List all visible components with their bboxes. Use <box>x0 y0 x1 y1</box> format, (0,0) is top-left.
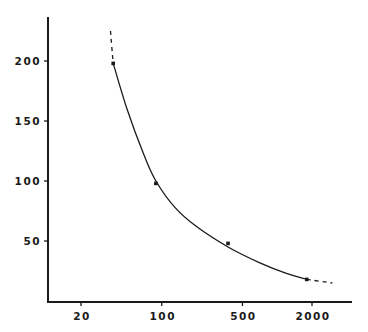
fitted-curve <box>113 63 307 279</box>
x-axis: 201005002000 <box>47 302 352 322</box>
y-tick-label: 200 <box>15 55 41 67</box>
y-tick-label: 150 <box>15 115 41 127</box>
chart: 50100150200 201005002000 <box>0 0 368 332</box>
extrapolation-dashed-line <box>307 279 333 283</box>
x-tick-label: 20 <box>73 310 91 322</box>
x-tick-label: 2000 <box>295 310 330 322</box>
extrapolation-dashed-line <box>111 31 114 63</box>
y-tick-label: 50 <box>23 235 41 247</box>
y-axis: 50100150200 <box>15 17 48 302</box>
data-point <box>226 242 230 246</box>
y-tick-label: 100 <box>15 175 41 187</box>
plot-area <box>111 31 333 283</box>
x-tick-label: 100 <box>150 310 176 322</box>
y-ticks: 50100150200 <box>15 55 48 247</box>
x-ticks: 201005002000 <box>73 302 330 322</box>
x-tick-label: 500 <box>230 310 256 322</box>
